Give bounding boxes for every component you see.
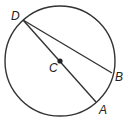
chord-DB bbox=[23, 20, 112, 73]
center-point bbox=[57, 58, 62, 63]
label-D: D bbox=[11, 9, 20, 23]
label-A: A bbox=[98, 103, 107, 117]
label-C: C bbox=[49, 61, 58, 75]
label-B: B bbox=[115, 70, 123, 84]
circle-diagram: D C B A bbox=[0, 0, 129, 123]
